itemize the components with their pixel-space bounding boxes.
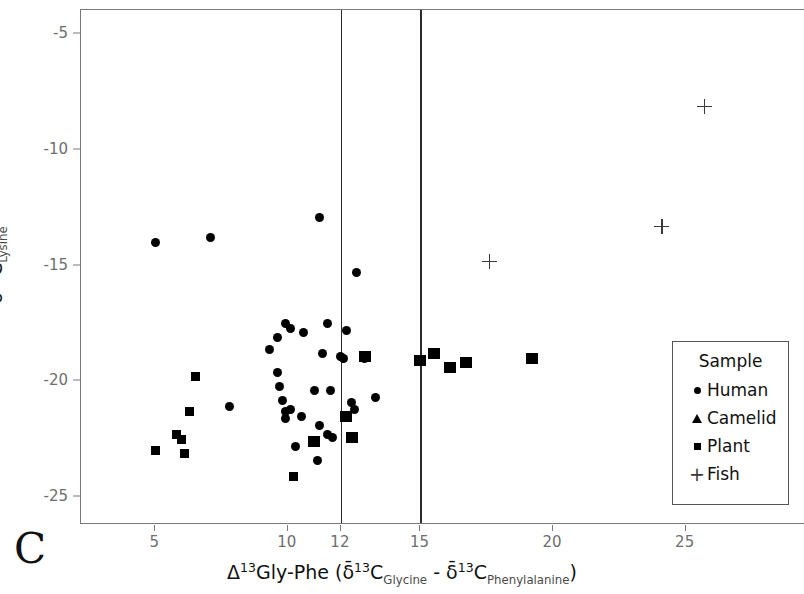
x-axis-title: Δ13Gly-Phe (δ̄13CGlycine - δ̄13CPhenylal… [0,560,804,587]
legend-title: Sample [673,351,788,371]
data-point-human [371,393,380,402]
data-point-human [326,386,335,395]
plus-marker-icon-glyph: + [689,465,705,484]
data-point-human [273,333,282,342]
data-point-camelid [460,357,472,368]
data-point-camelid [526,353,538,364]
x-title-delta-symbol: Δ [227,561,240,583]
y-tick-label: -5 [6,24,68,42]
legend-label: Camelid [707,408,777,428]
x-tick-label: 5 [149,533,159,551]
data-point-human [315,421,324,430]
data-point-human [275,382,284,391]
data-point-camelid [444,362,456,373]
square-marker-icon-glyph [694,443,701,450]
x-tick-label: 12 [330,533,349,551]
y-tick-label: -15 [6,256,68,274]
x-title-sup-3: 13 [458,560,474,575]
data-point-plant [180,449,189,458]
data-point-fish [482,254,497,269]
y-tick-label: -25 [6,487,68,505]
data-point-human [297,412,306,421]
x-title-mid: Gly-Phe ( [256,561,342,583]
legend-entry-human: Human [673,376,788,404]
data-point-human [313,456,322,465]
legend-entries: HumanCamelidPlant+Fish [673,376,788,488]
square-marker-icon [687,443,707,450]
data-point-human [278,396,287,405]
x-title-delta-bar-2: δ̄ [446,561,458,583]
data-point-plant [289,472,298,481]
y-tick-mark [73,496,80,497]
x-title-sub-glycine: Glycine [383,573,427,587]
x-tick-mark [552,525,553,531]
data-point-fish [654,219,669,234]
x-tick-mark [154,525,155,531]
legend-label: Fish [707,464,740,484]
y-axis-title: δ̄13CLysine [0,226,10,303]
data-point-human [310,386,319,395]
data-point-human [299,328,308,337]
triangle-marker-icon-glyph [692,414,702,423]
x-title-sup-1: 13 [240,560,256,575]
data-point-camelid [428,348,440,359]
legend-entry-camelid: Camelid [673,404,788,432]
data-point-camelid [340,411,352,422]
data-point-human [342,326,351,335]
y-tick-mark [73,380,80,381]
reference-line-x-12 [341,10,343,523]
data-point-human [281,414,290,423]
y-title-c: C [0,263,6,276]
y-title-subscript: Lysine [0,226,10,263]
data-point-fish [697,99,712,114]
panel-label: C [14,524,46,573]
x-title-c-2: C [474,561,487,583]
data-point-human [315,213,324,222]
x-tick-label: 25 [675,533,694,551]
legend-label: Human [707,380,768,400]
legend: Sample HumanCamelidPlant+Fish [672,341,789,505]
figure-panel-c: -5-10-15-20-25 51012152025 δ̄13CLysine Δ… [0,0,804,594]
legend-entry-fish: +Fish [673,460,788,488]
y-tick-label: -20 [6,371,68,389]
x-title-sup-2: 13 [354,560,370,575]
data-point-camelid [346,432,358,443]
y-tick-label: -10 [6,140,68,158]
y-tick-mark [73,33,80,34]
plus-marker-icon: + [687,465,707,484]
legend-entry-plant: Plant [673,432,788,460]
x-tick-mark [340,525,341,531]
data-point-plant [185,407,194,416]
circle-marker-icon [687,387,707,394]
data-point-camelid [414,355,426,366]
data-point-human [206,233,215,242]
y-tick-mark [73,149,80,150]
data-point-plant [177,435,186,444]
data-point-human [265,345,274,354]
x-title-minus: - [427,561,446,583]
data-point-human [225,402,234,411]
x-tick-label: 20 [543,533,562,551]
data-point-human [151,238,160,247]
data-point-human [318,349,327,358]
data-point-human [352,268,361,277]
data-point-camelid [308,436,320,447]
data-point-camelid [359,351,371,362]
data-point-human [291,442,300,451]
legend-label: Plant [707,436,750,456]
x-title-delta-bar-1: δ̄ [342,561,354,583]
x-title-close-paren: ) [570,561,577,583]
y-title-delta: δ̄ [0,292,6,304]
x-tick-mark [287,525,288,531]
data-point-human [323,319,332,328]
data-point-human [339,354,348,363]
x-tick-mark [685,525,686,531]
y-tick-mark [73,264,80,265]
x-title-c-1: C [370,561,383,583]
data-point-plant [191,372,200,381]
data-point-plant [151,446,160,455]
data-point-human [273,368,282,377]
x-title-sub-phenylalanine: Phenylalanine [487,573,570,587]
data-point-human [286,324,295,333]
circle-marker-icon-glyph [694,387,701,394]
